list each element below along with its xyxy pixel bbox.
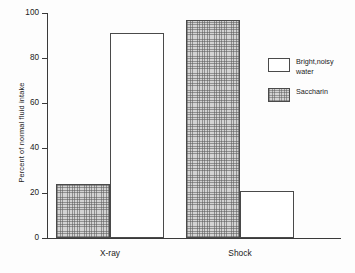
legend-swatch-hatched-icon xyxy=(268,88,290,102)
y-tick-label-80: 80 xyxy=(30,54,39,62)
x-axis-label-shock: Shock xyxy=(228,248,251,258)
y-tick-20: 20 xyxy=(42,193,47,194)
legend-label-saccharin: Saccharin xyxy=(296,87,328,97)
y-tick-label-100: 100 xyxy=(25,9,39,17)
y-tick-0: 0 xyxy=(42,238,47,239)
y-tick-80: 80 xyxy=(42,58,47,59)
legend-label-bright-noisy-water: Bright,noisywater xyxy=(296,57,334,76)
y-tick-40: 40 xyxy=(42,148,47,149)
plot-area: 0 20 40 60 80 100 X-ray Shock xyxy=(47,13,305,238)
legend: Bright,noisywater Saccharin xyxy=(268,57,354,113)
legend-label-line1: Bright,noisy xyxy=(296,57,334,66)
y-tick-label-0: 0 xyxy=(34,234,39,242)
bar-shock-saccharin xyxy=(186,20,240,238)
legend-swatch-white-icon xyxy=(268,58,290,72)
y-axis-title: Percent of normal fluid intake xyxy=(17,48,26,218)
y-tick-100: 100 xyxy=(42,13,47,14)
bar-xray-saccharin xyxy=(56,184,110,238)
y-tick-label-60: 60 xyxy=(30,99,39,107)
x-axis-label-xray: X-ray xyxy=(100,248,120,258)
legend-entry-saccharin: Saccharin xyxy=(268,87,354,102)
bar-xray-bright-noisy-water xyxy=(110,33,164,238)
y-axis-line xyxy=(47,13,48,239)
y-tick-60: 60 xyxy=(42,103,47,104)
legend-entry-bright-noisy-water: Bright,noisywater xyxy=(268,57,354,76)
x-axis-line xyxy=(47,238,341,239)
legend-label-line2: water xyxy=(296,67,314,76)
bar-chart: Percent of normal fluid intake 0 20 40 6… xyxy=(0,0,355,273)
y-tick-label-40: 40 xyxy=(30,144,39,152)
bar-shock-bright-noisy-water xyxy=(240,191,294,238)
y-tick-label-20: 20 xyxy=(30,189,39,197)
